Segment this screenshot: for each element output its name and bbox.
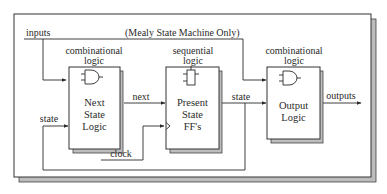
next-label: next <box>132 91 149 102</box>
state-label-left: state <box>40 113 59 124</box>
outputs-label: outputs <box>326 90 356 101</box>
present-state-ffs-block: Present State FF's <box>166 66 222 153</box>
present-state-label-1: Present <box>177 97 208 108</box>
present-state-label-2: State <box>182 109 203 120</box>
inputs-label: inputs <box>26 27 51 38</box>
state-machine-diagram: inputs (Mealy State Machine Only) Next S… <box>0 0 387 194</box>
clock-label: clock <box>110 148 132 159</box>
present-state-label-3: FF's <box>184 121 202 132</box>
present-state-category-2: logic <box>183 55 204 66</box>
output-logic-category-2: logic <box>284 55 305 66</box>
next-state-logic-block: Next State Logic <box>69 67 123 153</box>
output-logic-label-2: Logic <box>281 112 306 123</box>
state-label-right: state <box>232 91 251 102</box>
output-logic-label-1: Output <box>279 100 308 111</box>
mealy-note: (Mealy State Machine Only) <box>125 27 240 39</box>
output-logic-block: Output Logic <box>267 67 323 143</box>
next-state-label-1: Next <box>84 97 104 108</box>
next-state-label-2: State <box>84 109 105 120</box>
next-state-label-3: Logic <box>82 121 107 132</box>
next-state-category-2: logic <box>84 55 105 66</box>
